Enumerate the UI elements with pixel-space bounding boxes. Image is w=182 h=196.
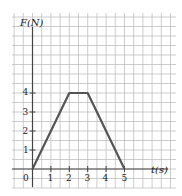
y-axis-label: F(N) bbox=[19, 17, 44, 28]
x-tick-label-2: 2 bbox=[66, 173, 72, 183]
y-tick-label-4: 4 bbox=[23, 87, 29, 97]
x-axis-label: t(s) bbox=[151, 164, 168, 175]
tick-marks bbox=[30, 93, 125, 172]
y-tick-label-1: 1 bbox=[23, 145, 29, 155]
x-tick-label-4: 4 bbox=[103, 173, 109, 183]
force-time-chart: F(N) t(s) 0 1 2 3 4 5 1 2 3 4 bbox=[0, 0, 182, 196]
x-tick-label-1: 1 bbox=[48, 173, 54, 183]
y-tick-label-2: 2 bbox=[23, 126, 29, 136]
x-tick-label-0: 0 bbox=[23, 173, 29, 183]
x-tick-label-3: 3 bbox=[85, 173, 91, 183]
x-tick-label-5: 5 bbox=[122, 173, 128, 183]
y-tick-label-3: 3 bbox=[23, 107, 29, 117]
